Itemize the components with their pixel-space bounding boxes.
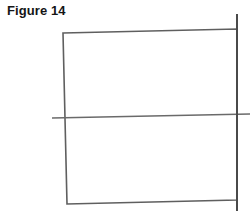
horizontal-crossing-line xyxy=(52,114,250,118)
figure-container: Figure 14 xyxy=(0,0,250,211)
figure-line-drawing xyxy=(0,0,250,211)
